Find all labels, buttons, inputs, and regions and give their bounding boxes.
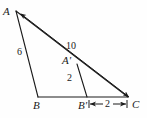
vertex-label-A: A	[3, 6, 10, 17]
vertex-label-B: B	[33, 100, 40, 111]
measure-label-side-A-prime-B-prime: 2	[67, 73, 72, 83]
measure-label-segment-B-prime-C: 2	[105, 99, 110, 109]
segment-A-prime-B-prime	[77, 64, 87, 97]
triangle-A-prime-B-prime-C	[77, 64, 87, 97]
figure-canvas	[0, 0, 147, 118]
dimension-line-AC	[21, 14, 129, 97]
measure-label-side-AB: 6	[17, 47, 22, 57]
vertex-label-B-prime: B'	[78, 100, 87, 111]
geometry-figure: A B C A' B' 6 10 2 2	[0, 0, 147, 118]
triangle-ABC	[16, 11, 128, 97]
measure-label-side-AC: 10	[66, 41, 76, 51]
vertex-label-C: C	[132, 99, 139, 110]
dimension-AC-arrow	[21, 14, 129, 97]
segment-AC	[16, 11, 128, 97]
vertex-label-A-prime: A'	[62, 55, 71, 66]
